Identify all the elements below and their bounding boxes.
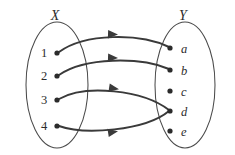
- domain-element-dot-1: [54, 50, 59, 55]
- arrow-path: [59, 61, 169, 75]
- domain-element-label-4: 4: [41, 119, 48, 133]
- mapping-arrow-1-to-a: [59, 30, 169, 52]
- mapping-arrow-2-to-b: [59, 53, 169, 75]
- mapping-arrow-4-to-d: [59, 111, 169, 137]
- codomain-element-label-e: e: [181, 125, 187, 139]
- codomain-element-dot-e: [167, 128, 172, 133]
- domain-element-dot-4: [54, 123, 59, 128]
- arrow-path: [59, 37, 169, 52]
- codomain-set-label: Y: [179, 8, 189, 23]
- arrow-path: [59, 111, 169, 131]
- codomain-element-label-c: c: [181, 85, 187, 99]
- domain-set-ellipse: [26, 22, 88, 148]
- codomain-element-dot-d: [167, 108, 172, 113]
- domain-element-dot-3: [54, 97, 59, 102]
- codomain-element-dot-a: [167, 45, 172, 50]
- codomain-element-label-d: d: [181, 105, 188, 119]
- codomain-element-dot-b: [167, 67, 172, 72]
- function-diagram-container: X Y 1 2 3 4: [0, 0, 235, 155]
- diagram-canvas: X Y 1 2 3 4: [0, 0, 235, 155]
- domain-set-label: X: [50, 8, 60, 23]
- domain-element-label-1: 1: [41, 46, 47, 60]
- domain-element-label-3: 3: [41, 93, 47, 107]
- mapping-arrow-3-to-d: [59, 83, 169, 110]
- codomain-element-label-b: b: [181, 64, 187, 78]
- domain-element-dot-2: [54, 73, 59, 78]
- codomain-element-dot-c: [167, 88, 172, 93]
- arrow-path: [59, 91, 169, 110]
- domain-element-label-2: 2: [41, 69, 47, 83]
- codomain-element-label-a: a: [181, 42, 187, 56]
